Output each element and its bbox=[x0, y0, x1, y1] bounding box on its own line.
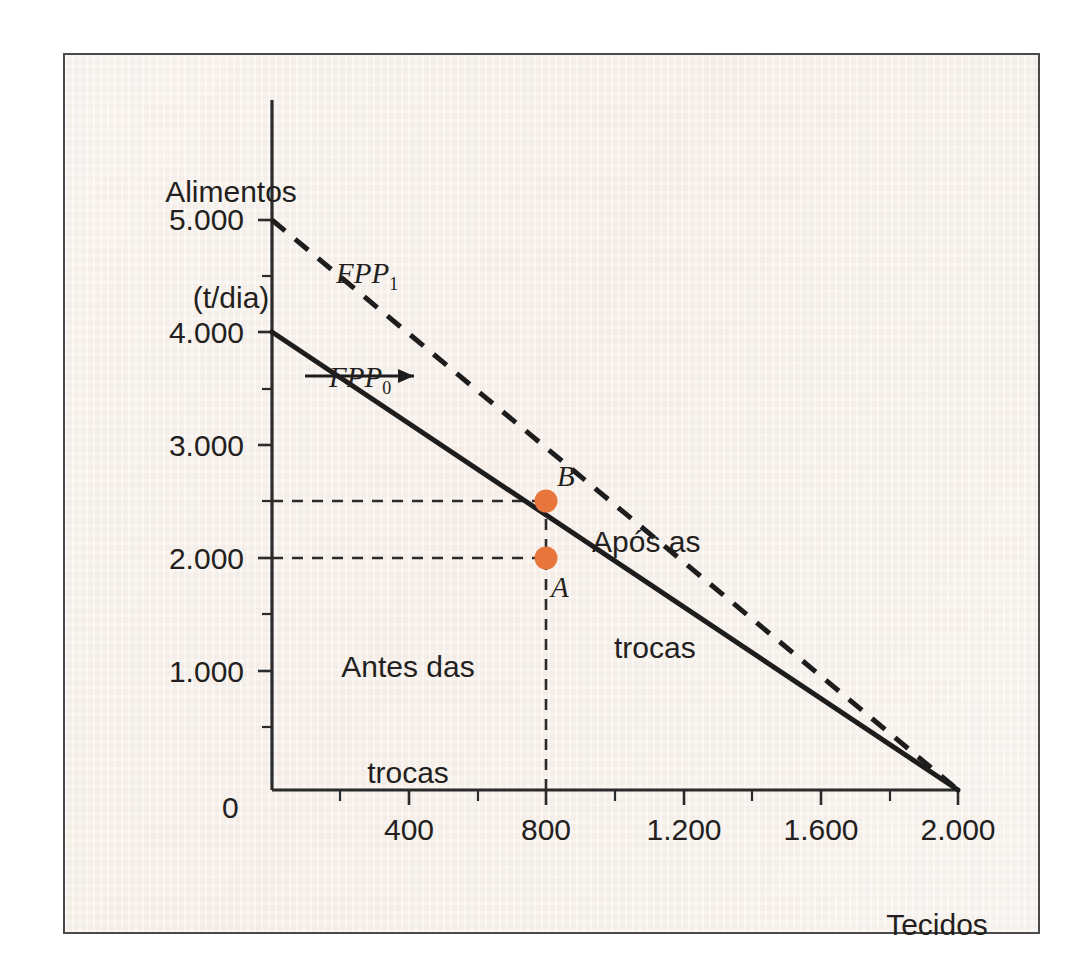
fpp0-label-sub: 0 bbox=[382, 378, 391, 398]
y-tick-label-3000: 3.000 bbox=[128, 428, 244, 463]
point-b-marker bbox=[535, 490, 558, 513]
y-axis-title-line2: (t/dia) bbox=[146, 280, 316, 315]
x-axis-title: Tecidos (t/dia) bbox=[862, 836, 1012, 972]
x-tick-label-1600: 1.600 bbox=[761, 812, 881, 847]
before-trades-annotation: Antes das trocas bbox=[303, 578, 513, 861]
point-a-marker bbox=[535, 547, 558, 570]
fpp1-label-sub: 1 bbox=[389, 274, 398, 294]
fpp1-label: FPP1 bbox=[307, 222, 398, 329]
y-tick-label-1000: 1.000 bbox=[128, 654, 244, 689]
y-tick-label-4000: 4.000 bbox=[128, 315, 244, 350]
before-trades-line1: Antes das bbox=[303, 649, 513, 684]
after-trades-annotation: Após as trocas bbox=[592, 453, 772, 736]
x-tick-label-2000: 2.000 bbox=[898, 812, 1018, 847]
x-axis-title-line1: Tecidos bbox=[862, 907, 1012, 942]
fpp1-label-text: FPP bbox=[336, 257, 389, 289]
point-a-label: A bbox=[551, 570, 569, 604]
y-tick-label-2000: 2.000 bbox=[128, 541, 244, 576]
before-trades-line2: trocas bbox=[303, 755, 513, 790]
y-tick-label-5000: 5.000 bbox=[128, 202, 244, 237]
after-trades-line1: Após as bbox=[592, 524, 772, 559]
after-trades-line2: trocas bbox=[592, 630, 772, 665]
figure-page: Alimentos (t/dia) Tecidos (t/dia) 0 5.00… bbox=[0, 0, 1090, 972]
fpp0-label-text: FPP bbox=[329, 361, 382, 393]
fpp0-label: FPP0 bbox=[300, 326, 391, 433]
x-tick-label-1200: 1.200 bbox=[624, 812, 744, 847]
origin-label: 0 bbox=[222, 790, 239, 825]
point-b-label: B bbox=[557, 459, 575, 493]
